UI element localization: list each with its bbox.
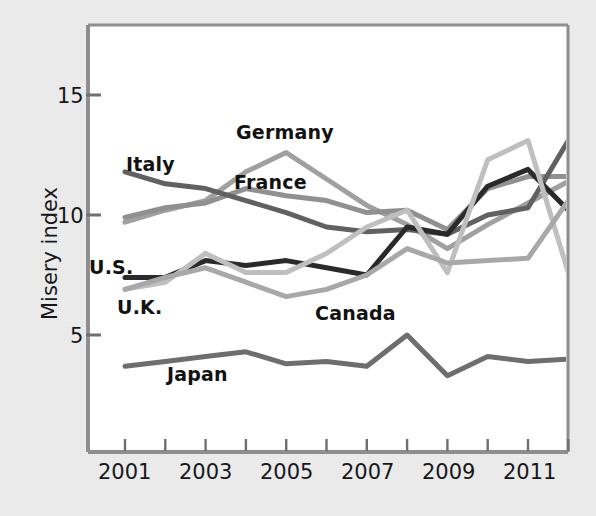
series-label-france: France [234,171,307,193]
series-label-italy: Italy [126,153,175,175]
plot-background [88,25,568,452]
series-label-germany: Germany [236,121,334,143]
series-label-us: U.S. [89,256,133,278]
series-label-uk: U.K. [117,296,162,318]
series-label-canada: Canada [315,302,396,324]
misery-index-line-chart: Misery index 15 10 5 2001 2003 2005 2007… [0,0,596,516]
series-label-japan: Japan [167,363,228,385]
